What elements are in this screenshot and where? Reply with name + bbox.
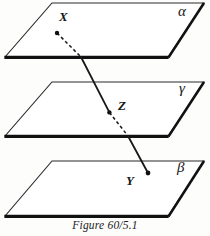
point-label-z: Z <box>118 99 126 112</box>
plane-label-beta: β <box>177 160 184 175</box>
point-dot-X <box>55 31 59 35</box>
point-dot-Y <box>146 171 151 176</box>
plane-beta <box>4 161 204 217</box>
plane-alpha <box>4 3 204 58</box>
plane-label-gamma: γ <box>179 81 185 96</box>
point-dot-Z <box>107 110 111 114</box>
geometry-figure: X Z Y α γ β Figure 60/5.1 <box>0 0 210 236</box>
plane-label-alpha: α <box>178 4 186 19</box>
figure-caption: Figure 60/5.1 <box>0 219 210 231</box>
plane-gamma <box>4 82 204 137</box>
figure-canvas <box>0 0 210 236</box>
point-label-y: Y <box>126 174 134 187</box>
point-label-x: X <box>59 10 68 23</box>
